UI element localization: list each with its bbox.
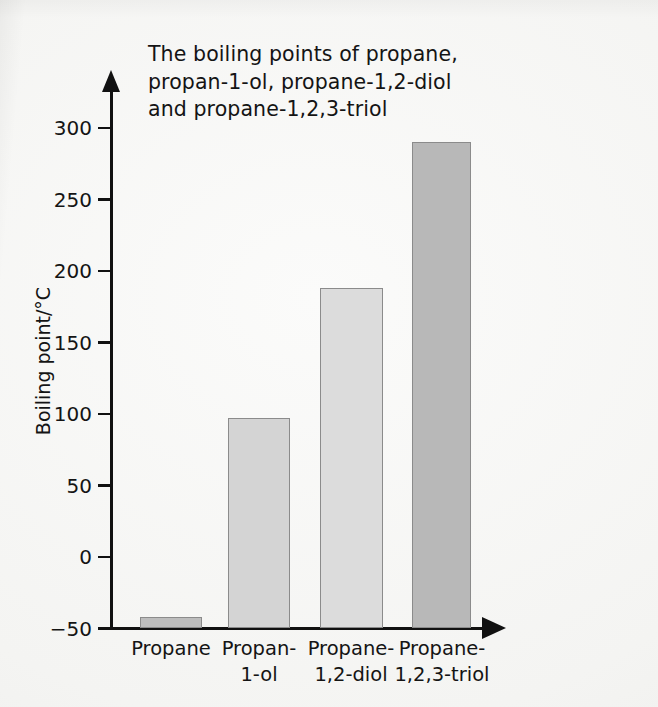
- y-axis-tick-mark: [98, 341, 111, 344]
- chart-figure: The boiling points of propane, propan-1-…: [0, 0, 658, 707]
- y-axis-tick-label: 150: [26, 333, 92, 353]
- bar-propan-1-ol: [228, 418, 290, 628]
- y-axis-tick-label: 200: [26, 261, 92, 281]
- y-axis-tick-mark: [98, 198, 111, 201]
- bar-propane-1-2-3-triol: [412, 142, 471, 628]
- y-axis-tick-mark: [98, 127, 111, 130]
- y-axis-tick-label: 300: [26, 118, 92, 138]
- chart-title: The boiling points of propane, propan-1-…: [148, 41, 508, 124]
- y-axis-tick-label: −50: [26, 619, 92, 639]
- y-axis-tick-label: 50: [26, 476, 92, 496]
- x-axis-label-propane-1-2-3-triol: Propane- 1,2,3-triol: [374, 636, 510, 688]
- y-axis-tick-mark: [98, 627, 111, 630]
- y-axis-tick-label: 100: [26, 404, 92, 424]
- y-axis-line: [110, 88, 113, 630]
- y-axis-tick-mark: [98, 270, 111, 273]
- y-axis-tick-mark: [98, 556, 111, 559]
- bar-propane: [140, 617, 202, 628]
- y-axis-tick-mark: [98, 413, 111, 416]
- y-axis-tick-mark: [98, 484, 111, 487]
- y-axis-tick-label: 0: [26, 547, 92, 567]
- y-axis-tick-label: 250: [26, 190, 92, 210]
- bar-propane-1-2-diol: [320, 288, 383, 628]
